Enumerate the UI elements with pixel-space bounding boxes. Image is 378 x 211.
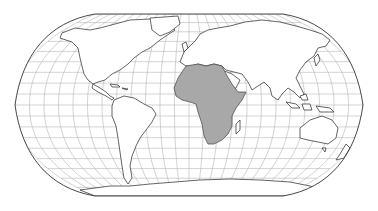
madagascar	[236, 120, 240, 134]
australia	[300, 116, 338, 144]
maritime-southeast-asia	[286, 94, 334, 112]
antarctica	[80, 179, 320, 196]
south-america	[112, 96, 156, 184]
caribbean-islands	[110, 84, 128, 90]
tasmania	[322, 148, 326, 152]
world-map	[0, 0, 378, 211]
